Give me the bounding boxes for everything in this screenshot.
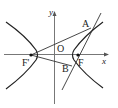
hyperbola-diagram [0,0,118,108]
focus-left-point [29,53,32,56]
y-axis-arrow-icon [53,11,57,16]
focus-left-label: F' [22,58,29,68]
focus-right-label: F [78,58,84,68]
point-b-label: B [62,64,69,74]
point-a-label: A [82,19,89,29]
y-axis-label: y [49,8,53,17]
origin-label: O [57,44,64,54]
x-axis-label: x [102,57,106,66]
